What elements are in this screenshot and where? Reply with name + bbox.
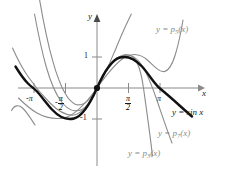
curve-label-sin: y = sin x xyxy=(172,108,203,117)
x-tick-label-neg-pi: -π xyxy=(26,95,33,103)
x-tick-label-neg-pi-over-2: -π2 xyxy=(55,94,64,112)
y-tick-label-one: 1 xyxy=(84,52,88,60)
label-y: y xyxy=(172,107,176,117)
curve-p3-render xyxy=(12,106,36,125)
label-eq: = xyxy=(134,148,140,158)
fraction-pi-over-2: π2 xyxy=(125,95,131,112)
label-fn: sin xyxy=(187,107,198,117)
x-tick-label-pi-over-2: π2 xyxy=(125,94,131,112)
label-eq: = xyxy=(162,24,168,34)
y-tick-label-neg-one: -1 xyxy=(80,114,87,122)
label-arg: (x) xyxy=(178,24,188,34)
label-arg: (x) xyxy=(180,128,190,138)
label-y: y xyxy=(156,24,160,34)
x-axis-label: x xyxy=(202,89,206,98)
fraction-denominator: 2 xyxy=(58,104,64,112)
plot-canvas xyxy=(0,0,228,171)
y-axis-label: y xyxy=(88,12,92,21)
label-y: y xyxy=(128,148,132,158)
curve-label-p7: y = p7(x) xyxy=(158,129,190,139)
curve-label-p5: y = p5(x) xyxy=(156,25,188,35)
label-var: x xyxy=(199,107,203,117)
label-arg: (x) xyxy=(150,148,160,158)
curve-label-p3: y = p3(x) xyxy=(128,149,160,159)
label-eq: = xyxy=(164,128,170,138)
label-eq: = xyxy=(178,107,184,117)
fraction-denominator: 2 xyxy=(125,104,131,112)
origin-point xyxy=(94,85,100,91)
label-y: y xyxy=(158,128,162,138)
fraction-pi-over-2: π2 xyxy=(58,95,64,112)
taylor-polynomial-figure: y x 1 -1 -π -π2 π2 π y = p5(x) y = sin x… xyxy=(0,0,228,171)
x-tick-label-pi: π xyxy=(157,95,161,103)
x-axis xyxy=(18,85,205,92)
